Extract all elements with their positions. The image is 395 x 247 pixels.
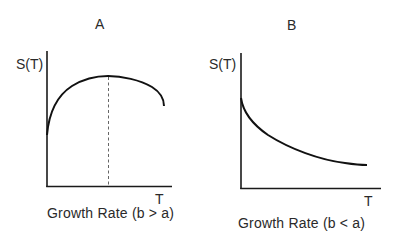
panel-a-caption: Growth Rate (b > a): [47, 206, 174, 220]
panel-a-title: A: [95, 17, 104, 31]
panel-a-y-axis-label: S(T): [16, 57, 43, 71]
panel-a-curve: [47, 76, 164, 135]
panel-b-x-axis-label: T: [364, 194, 373, 208]
panel-a-plot: [46, 51, 172, 187]
panel-b-caption: Growth Rate (b < a): [238, 216, 365, 230]
panel-b-plot: [240, 53, 381, 189]
panel-a-x-axis-label: T: [155, 192, 164, 206]
panel-b-curve: [241, 98, 367, 165]
panel-b-y-axis-label: S(T): [209, 57, 236, 71]
panel-b-title: B: [287, 18, 296, 32]
